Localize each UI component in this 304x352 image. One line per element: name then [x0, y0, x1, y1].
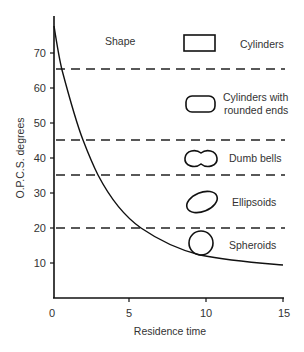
cylinder-icon [184, 35, 215, 51]
rounded-cylinders-label-line1: Cylinders with [223, 91, 289, 103]
ellipsoids-label: Ellipsoids [232, 196, 276, 208]
rounded-cylinder-icon [186, 96, 215, 112]
x-tick-label: 0 [49, 307, 55, 319]
ellipsoid-icon [184, 187, 221, 217]
y-tick-label: 70 [34, 47, 46, 59]
x-tick-label: 5 [126, 307, 132, 319]
x-tick-label: 10 [200, 307, 212, 319]
y-tick-label: 20 [34, 222, 46, 234]
y-tick-label: 50 [34, 117, 46, 129]
spheroid-icon [189, 231, 213, 255]
y-tick-label: 40 [34, 152, 46, 164]
y-axis-title: O.P.C.S. degrees [14, 118, 26, 199]
dumbbells-label: Dumb bells [229, 152, 282, 164]
dumbbell-icon [185, 151, 217, 167]
y-tick-labels: 10 20 30 40 50 60 70 [34, 47, 46, 269]
y-tick-label: 60 [34, 82, 46, 94]
y-tick-label: 10 [34, 257, 46, 269]
shape-header: Shape [105, 35, 136, 47]
x-axis-title: Residence time [134, 325, 207, 337]
data-curve [54, 26, 283, 265]
rounded-cylinders-label-line2: rounded ends [224, 104, 288, 116]
cylinders-label: Cylinders [240, 38, 284, 50]
x-tick-labels: 0 5 10 15 [49, 307, 290, 319]
x-tick-label: 15 [278, 307, 290, 319]
y-tick-label: 30 [34, 187, 46, 199]
spheroids-label: Spheroids [229, 239, 276, 251]
chart: 10 20 30 40 50 60 70 0 5 10 15 Residence… [0, 0, 304, 352]
